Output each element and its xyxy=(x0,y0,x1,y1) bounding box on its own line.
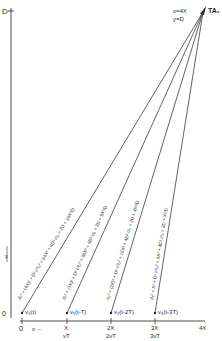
source-label-0: v₀(t) xyxy=(25,309,36,315)
source-point-3 xyxy=(154,312,156,314)
tick-sublabel-2vt: 2vT xyxy=(106,333,116,339)
source-point-0 xyxy=(21,312,23,314)
tick-sublabel-vt: vT xyxy=(63,333,70,339)
ray-1 xyxy=(67,12,203,313)
source-label-2: v₂(t-2T) xyxy=(114,309,134,315)
ray-label-2: d₂² = (2X)² + D² c²t₂² = 16X² + 4D² ct₂ … xyxy=(105,199,140,300)
source-label-1: v₁(t-T) xyxy=(70,309,86,315)
tick-sublabel-3vt: 3vT xyxy=(150,333,160,339)
source-label-3: v₃(t-3T) xyxy=(158,309,178,315)
tick-label-x: X xyxy=(64,325,68,331)
ray-3 xyxy=(155,12,203,313)
vertical-top-label: D xyxy=(2,7,8,16)
tick-label-3x: 3X xyxy=(151,325,158,331)
ray-0 xyxy=(22,12,203,313)
apex-label: TA₁ xyxy=(208,7,220,14)
ray-diagram: D y 0 0 x ← X vT 2X 2vT 3X 3vT 4X TA₁ x=… xyxy=(0,0,222,341)
horizontal-origin-label: 0 xyxy=(19,325,23,332)
tick-label-2x: 2X xyxy=(107,325,114,331)
horizontal-direction-label: x ← xyxy=(32,326,43,332)
origin-label: 0 xyxy=(2,310,6,317)
source-point-1 xyxy=(66,312,68,314)
horizontal-end-label: 4X xyxy=(199,325,206,331)
apex-coord-x: x=4X xyxy=(173,8,187,14)
vertical-axis-label: y xyxy=(5,253,8,259)
apex-coord-y: y=D xyxy=(173,16,185,22)
source-point-2 xyxy=(110,312,112,314)
